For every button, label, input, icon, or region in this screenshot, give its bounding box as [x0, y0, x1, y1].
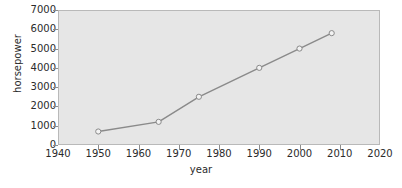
- x-tick-mark: [179, 145, 180, 150]
- data-point-marker: [297, 46, 302, 51]
- y-tick-mark: [53, 145, 58, 146]
- data-point-marker: [329, 31, 334, 36]
- x-axis-label: year: [0, 164, 402, 175]
- x-tick-mark: [98, 145, 99, 150]
- x-tick-mark: [219, 145, 220, 150]
- chart-series-layer: [58, 10, 380, 145]
- x-tick-label: 2020: [358, 148, 402, 159]
- data-point-markers: [96, 31, 335, 135]
- data-point-marker: [196, 94, 201, 99]
- y-tick-label: 1000: [12, 121, 56, 131]
- data-point-marker: [156, 119, 161, 124]
- y-tick-mark: [53, 126, 58, 127]
- y-tick-mark: [53, 49, 58, 50]
- y-axis-label: horsepower: [12, 14, 23, 114]
- chart-figure: 01000200030004000500060007000 1940195019…: [0, 0, 402, 188]
- x-tick-label: 1940: [36, 148, 80, 159]
- y-tick-mark: [53, 68, 58, 69]
- data-point-marker: [96, 129, 101, 134]
- x-tick-mark: [300, 145, 301, 150]
- y-tick-mark: [53, 106, 58, 107]
- y-tick-mark: [53, 29, 58, 30]
- y-tick-mark: [53, 87, 58, 88]
- x-tick-mark: [259, 145, 260, 150]
- data-point-marker: [257, 65, 262, 70]
- y-tick-mark: [53, 10, 58, 11]
- x-tick-mark: [139, 145, 140, 150]
- x-tick-mark: [340, 145, 341, 150]
